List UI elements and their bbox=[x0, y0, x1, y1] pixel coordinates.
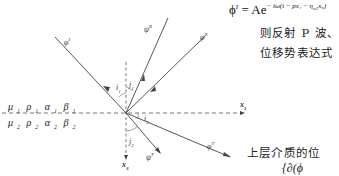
label-axis-x1: x1 bbox=[240, 101, 247, 111]
param-mu2: μ2 bbox=[8, 117, 20, 128]
lower-medium-params: μ2 ρ2 α2 β2 bbox=[8, 117, 80, 130]
label-angle-i1: i1 bbox=[116, 84, 121, 94]
label-phi-R: φR bbox=[200, 32, 208, 42]
ray-phi-R bbox=[126, 36, 205, 113]
formula-lhs: ϕ bbox=[229, 2, 236, 17]
param-rho2: ρ2 bbox=[27, 117, 39, 128]
param-rho1: ρ1 bbox=[27, 101, 39, 112]
param-alpha1: α1 bbox=[45, 101, 57, 112]
angle-j2-arc bbox=[126, 127, 137, 131]
partial-equation: {∂(ϕ bbox=[282, 161, 303, 176]
upper-medium-params: μ1 ρ1 α1 β1 bbox=[8, 101, 80, 114]
label-axis-x3: x3 bbox=[122, 161, 129, 171]
body-text-line3: 上层介质的位 bbox=[247, 144, 320, 160]
formula-exponent: − iω(t − px₁ − ηα1x₃) bbox=[266, 2, 326, 10]
arrow-phi-T-icon bbox=[223, 152, 231, 157]
incident-wave-formula: ϕI = Ae− iω(t − px₁ − ηα1x₃) bbox=[229, 2, 326, 18]
label-angle-i2: i2 bbox=[144, 115, 149, 125]
label-angle-j1: j1 bbox=[129, 81, 134, 91]
param-beta2: β2 bbox=[64, 117, 76, 128]
angle-i1-arc bbox=[119, 93, 126, 97]
body-text-line1: 则反射 P 波、 bbox=[260, 24, 339, 40]
param-mu1: μ1 bbox=[8, 101, 20, 112]
x1-arrow-icon bbox=[240, 111, 245, 115]
label-psi-T: ψT bbox=[146, 152, 154, 162]
ray-phi-T bbox=[126, 113, 230, 157]
label-angle-j2: j2 bbox=[129, 138, 134, 148]
body-text-line2: 位移势表达式 bbox=[260, 44, 333, 60]
label-psi-R: ψR bbox=[144, 24, 152, 34]
label-phi-I: φI bbox=[64, 37, 70, 47]
label-phi-T: φT bbox=[207, 141, 214, 151]
formula-eq: = Ae bbox=[238, 2, 266, 17]
param-alpha2: α2 bbox=[45, 117, 57, 128]
param-beta1: β1 bbox=[64, 101, 76, 112]
